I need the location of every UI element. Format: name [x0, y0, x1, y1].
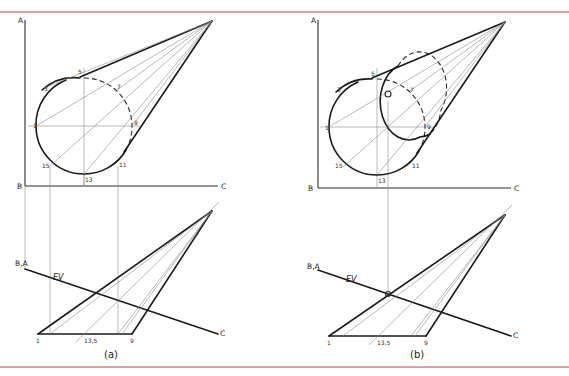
caption-b: (b) — [410, 349, 424, 360]
label-ev-b: EV — [346, 275, 357, 284]
label-point-5-b: 5 — [371, 70, 375, 77]
element-9-b — [425, 22, 505, 127]
element-15 — [50, 21, 212, 166]
label-edge-13-5-b: 13,5 — [377, 339, 391, 346]
cone-limb-top-b — [372, 22, 505, 78]
label-point-11-b: 11 — [412, 162, 420, 169]
label-point-3-b: 3 — [337, 86, 341, 93]
base-circle-visible — [36, 80, 126, 174]
label-point-9: 9 — [134, 119, 138, 126]
panel-a: A B C 1 3 5 7 9 11 13 15 B,A C EV 1 13,5… — [15, 16, 226, 360]
element-15-b — [343, 22, 505, 167]
element-13 — [84, 21, 212, 174]
label-edge-9-b: 9 — [424, 339, 428, 346]
label-c-lower-b: C — [513, 331, 518, 340]
edge-element-15 — [50, 211, 212, 334]
cone-section-diagram: A B C 1 3 5 7 9 11 13 15 B,A C EV 1 13,5… — [0, 0, 569, 376]
label-ba: B,A — [15, 259, 29, 268]
label-edge-1: 1 — [36, 337, 40, 344]
section-ellipse-visible — [380, 66, 430, 140]
edge-limb-right-b — [426, 215, 505, 336]
base-circle-arc-b — [336, 79, 372, 92]
label-point-13: 13 — [85, 176, 93, 183]
caption-a: (a) — [104, 349, 118, 360]
label-point-1-b: 1 — [325, 124, 329, 131]
element-13-b — [377, 22, 505, 175]
cone-limb-bottom — [124, 21, 212, 152]
label-point-1: 1 — [33, 122, 37, 129]
label-point-9-b: 9 — [427, 123, 431, 130]
label-b-b: B — [308, 184, 313, 193]
label-point-3: 3 — [44, 85, 48, 92]
label-ev: EV — [53, 273, 64, 282]
label-b: B — [17, 182, 22, 191]
label-point-15-b: 15 — [335, 162, 343, 169]
element-1-b — [329, 22, 505, 127]
label-point-7-b: 7 — [410, 86, 414, 93]
label-a: A — [18, 16, 24, 25]
label-c: C — [221, 182, 226, 191]
edge-element-9b — [122, 211, 212, 334]
label-point-13-b: 13 — [378, 177, 386, 184]
label-point-5: 5 — [78, 68, 82, 75]
label-point-11: 11 — [119, 161, 127, 168]
edge-limb-left — [38, 211, 212, 334]
label-a-b: A — [311, 16, 317, 25]
edge-element-15-b — [343, 215, 505, 336]
label-edge-1-b: 1 — [327, 339, 331, 346]
label-c-lower: C — [220, 329, 225, 338]
label-c-b: C — [514, 184, 519, 193]
label-point-15: 15 — [42, 162, 50, 169]
panel-b: A B C 1 3 5 7 9 11 13 15 B,A C EV 1 13,5… — [307, 16, 519, 360]
label-point-7: 7 — [117, 83, 121, 90]
label-edge-13-5: 13,5 — [84, 337, 98, 344]
cone-limb-bottom-b — [417, 22, 505, 153]
label-ba-b: B,A — [307, 262, 321, 271]
element-1 — [36, 21, 212, 126]
edge-limb-right — [132, 211, 212, 334]
edge-axis — [76, 202, 219, 342]
label-edge-9: 9 — [130, 337, 134, 344]
